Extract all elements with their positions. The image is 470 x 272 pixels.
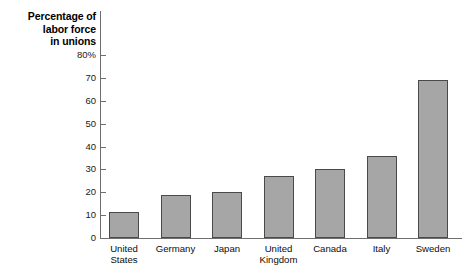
y-tick-label: 10 — [58, 210, 96, 220]
y-tick-label: 50 — [58, 119, 96, 129]
x-axis-label: Germany — [149, 243, 203, 254]
y-tick-mark — [101, 124, 106, 125]
x-axis-label: Italy — [355, 243, 409, 254]
y-tick-mark — [101, 238, 106, 239]
y-tick-mark — [101, 55, 106, 56]
y-tick-label: 70 — [58, 73, 96, 83]
y-axis-line — [100, 11, 101, 239]
y-tick-label-text: 0 — [62, 233, 96, 243]
y-tick-label-text: 80% — [62, 50, 96, 60]
x-axis-label: Japan — [200, 243, 254, 254]
bar — [418, 80, 448, 238]
x-axis-label: Canada — [303, 243, 357, 254]
y-tick-label-text: 50 — [62, 119, 96, 129]
bar-chart: Percentage of labor force in unions 80%7… — [0, 0, 470, 272]
x-axis-label: United Kingdom — [252, 243, 306, 265]
y-tick-label-text: 20 — [62, 187, 96, 197]
bar — [367, 156, 397, 238]
x-axis-label: Sweden — [406, 243, 460, 254]
bar — [315, 169, 345, 238]
y-tick-label-text: 60 — [62, 96, 96, 106]
y-tick-label: 0 — [58, 233, 96, 243]
y-tick-mark — [101, 192, 106, 193]
y-tick-label: 60 — [58, 96, 96, 106]
y-tick-mark — [101, 78, 106, 79]
y-tick-label: 20 — [58, 187, 96, 197]
y-tick-label: 40 — [58, 142, 96, 152]
bar — [161, 195, 191, 238]
x-axis-label: United States — [97, 243, 151, 265]
y-tick-label: 30 — [58, 164, 96, 174]
bar — [212, 192, 242, 238]
y-tick-label-text: 10 — [62, 210, 96, 220]
y-tick-label-text: 30 — [62, 164, 96, 174]
bar — [264, 176, 294, 238]
bar — [109, 212, 139, 238]
y-tick-label-text: 40 — [62, 142, 96, 152]
y-tick-mark — [101, 215, 106, 216]
y-tick-mark — [101, 147, 106, 148]
x-axis-line — [100, 238, 462, 239]
y-axis-title: Percentage of labor force in unions — [10, 10, 96, 48]
y-tick-mark — [101, 169, 106, 170]
y-tick-mark — [101, 101, 106, 102]
y-tick-label: 80% — [58, 50, 96, 60]
y-tick-label-text: 70 — [62, 73, 96, 83]
